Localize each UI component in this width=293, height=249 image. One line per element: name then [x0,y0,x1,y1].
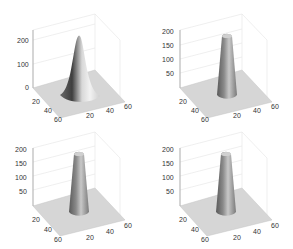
svg-text:50: 50 [166,70,174,77]
svg-text:20: 20 [32,216,40,223]
svg-text:150: 150 [162,42,174,49]
svg-text:40: 40 [44,107,52,114]
svg-text:20: 20 [86,234,94,241]
svg-text:200: 200 [162,146,174,153]
svg-text:100: 100 [162,174,174,181]
svg-text:200: 200 [17,37,29,44]
svg-text:100: 100 [15,174,27,181]
z-axis-ticks: 200 150 100 50 [162,28,174,77]
plot-top-left: 200 100 0 20 40 60 20 40 60 [0,0,146,124]
svg-text:40: 40 [253,228,261,235]
svg-text:60: 60 [271,222,279,229]
svg-text:100: 100 [162,56,174,63]
svg-text:20: 20 [179,98,187,105]
svg-text:40: 40 [44,226,52,233]
surface-plot-cone: 200 150 100 50 20 40 60 20 40 60 [147,0,293,124]
svg-text:40: 40 [253,107,261,114]
z-axis-ticks: 200 100 0 [17,37,29,91]
svg-text:50: 50 [166,188,174,195]
svg-text:40: 40 [106,107,114,114]
svg-text:200: 200 [162,28,174,35]
svg-text:100: 100 [17,61,29,68]
svg-text:20: 20 [233,112,241,119]
svg-text:0: 0 [25,84,29,91]
plot-top-right: 200 150 100 50 20 40 60 20 40 60 [147,0,293,124]
svg-text:200: 200 [15,146,27,153]
svg-text:60: 60 [54,116,62,123]
surface-plot-cone: 200 150 100 50 20 40 60 20 40 60 [0,124,146,248]
svg-text:60: 60 [201,116,209,123]
svg-text:20: 20 [179,216,187,223]
svg-text:60: 60 [124,103,132,110]
svg-text:20: 20 [32,98,40,105]
svg-text:20: 20 [86,112,94,119]
svg-text:60: 60 [124,222,132,229]
plot-bottom-left: 200 150 100 50 20 40 60 20 40 60 [0,124,146,248]
z-axis-ticks: 200 150 100 50 [162,146,174,195]
surface-plot-gaussian: 200 100 0 20 40 60 20 40 60 [0,0,146,124]
svg-text:60: 60 [271,103,279,110]
surface-plot-cone: 200 150 100 50 20 40 60 20 40 60 [147,124,293,248]
svg-text:40: 40 [191,107,199,114]
z-axis-ticks: 200 150 100 50 [15,146,27,195]
svg-text:150: 150 [15,160,27,167]
svg-text:40: 40 [106,228,114,235]
svg-text:60: 60 [201,236,209,243]
svg-text:150: 150 [162,160,174,167]
svg-text:50: 50 [19,188,27,195]
svg-text:40: 40 [191,226,199,233]
plot-bottom-right: 200 150 100 50 20 40 60 20 40 60 [147,124,293,248]
svg-text:60: 60 [54,236,62,243]
svg-text:20: 20 [233,234,241,241]
